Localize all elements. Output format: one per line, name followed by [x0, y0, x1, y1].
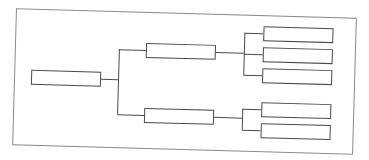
- leaf-node-1-2: [263, 47, 333, 64]
- leaf-node-2-2: [260, 123, 330, 140]
- diagram-canvas: [0, 0, 369, 160]
- branch-node-2: [144, 108, 214, 125]
- leaf-node-1-3: [262, 68, 332, 85]
- branch-node-1: [146, 43, 216, 60]
- leaf-node-1-1: [263, 26, 333, 43]
- leaf-node-2-1: [261, 102, 331, 119]
- root-node: [31, 70, 101, 87]
